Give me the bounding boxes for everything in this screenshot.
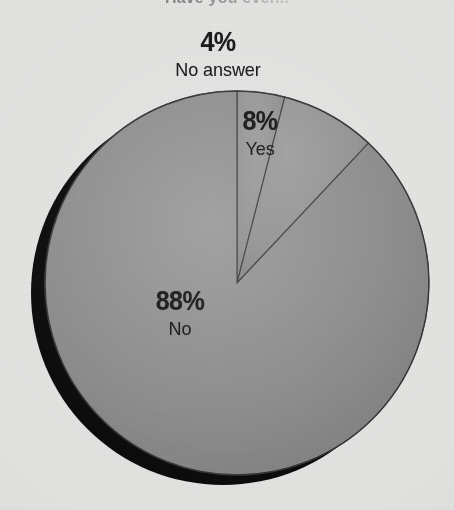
pie-label-no-answer: 4% No answer: [138, 29, 298, 79]
pie-label-no: 88% No: [100, 288, 260, 338]
pie-chart-page: Have you ever...: [0, 0, 454, 510]
pie-label-no-answer-name: No answer: [142, 60, 294, 79]
pie-label-yes: 8% Yes: [205, 108, 315, 158]
pie-label-no-percent: 88%: [106, 288, 255, 316]
chart-title: Have you ever...: [0, 0, 454, 7]
pie-label-yes-percent: 8%: [209, 108, 311, 136]
pie-label-no-answer-percent: 4%: [144, 29, 293, 57]
pie-label-no-name: No: [104, 319, 256, 338]
pie-label-yes-name: Yes: [208, 139, 313, 158]
